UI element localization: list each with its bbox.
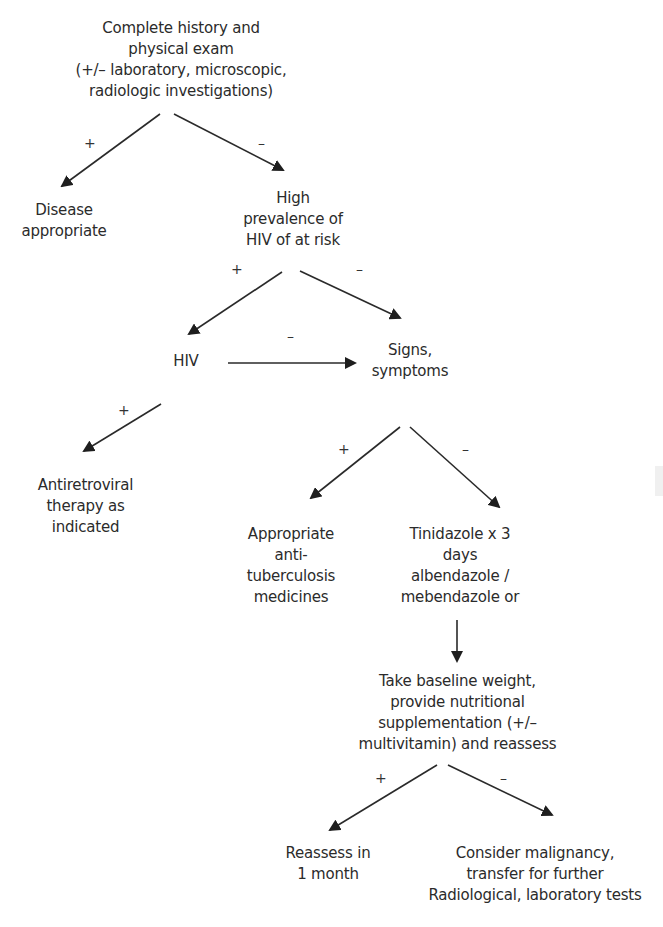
edge-label-minus: – xyxy=(356,262,363,276)
edge-history-to-high-prevalence xyxy=(174,114,283,170)
node-antiretroviral-therapy: Antiretroviral therapy as indicated xyxy=(18,475,153,538)
node-hiv: HIV xyxy=(160,351,212,372)
node-consider-malignancy: Consider malignancy, transfer for furthe… xyxy=(410,843,660,906)
edge-label-plus: + xyxy=(375,771,387,785)
node-reassess-1-month: Reassess in 1 month xyxy=(268,843,388,885)
scan-artifact xyxy=(655,466,663,496)
edge-signs-to-tinidazole xyxy=(410,427,499,507)
flowchart-canvas: Complete history and physical exam (+/– … xyxy=(0,0,663,927)
node-high-prevalence-hiv-risk: High prevalence of HIV of at risk xyxy=(228,188,358,251)
edge-label-minus: – xyxy=(287,329,294,343)
edge-label-minus: – xyxy=(258,136,265,150)
edge-prevalence-to-signs xyxy=(300,271,400,318)
edge-label-plus: + xyxy=(231,262,243,276)
edge-history-to-disease xyxy=(62,114,160,186)
node-complete-history: Complete history and physical exam (+/– … xyxy=(20,18,342,102)
edge-label-plus: + xyxy=(84,136,96,150)
edge-prevalence-to-hiv xyxy=(189,272,282,334)
node-baseline-weight: Take baseline weight, provide nutritiona… xyxy=(345,671,570,755)
node-tinidazole: Tinidazole x 3 days albendazole / mebend… xyxy=(385,524,535,608)
node-signs-symptoms: Signs, symptoms xyxy=(360,340,460,382)
edge-signs-to-anti-tb xyxy=(311,427,400,498)
edges-layer xyxy=(0,0,663,927)
edge-label-minus: – xyxy=(500,771,507,785)
node-disease-appropriate: Disease appropriate xyxy=(4,200,124,242)
node-anti-tuberculosis: Appropriate anti- tuberculosis medicines xyxy=(232,524,350,608)
edge-label-minus: – xyxy=(462,442,469,456)
edge-label-plus: + xyxy=(338,442,350,456)
edge-label-plus: + xyxy=(118,403,130,417)
